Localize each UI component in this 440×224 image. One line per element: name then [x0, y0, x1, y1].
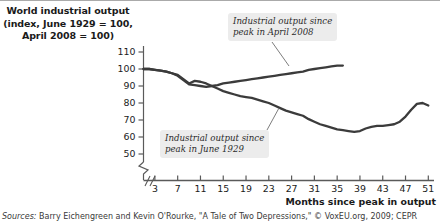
x-axis-tick-label: 19 [240, 183, 252, 194]
x-axis: 371115192327313539434751 [144, 176, 435, 194]
x-axis-tick-label: 39 [354, 183, 366, 194]
x-axis-tick-label: 43 [377, 183, 389, 194]
callout-1929-line-1: Industrial output since [165, 133, 264, 144]
y-axis-tick-labels: 1101009080706050 [118, 46, 136, 159]
x-axis-tick-label: 3 [152, 183, 158, 194]
line-series-1929 [144, 69, 429, 132]
x-axis-tick-label: 11 [194, 183, 206, 194]
plot-area: 1101009080706050 37111519232731353943475… [0, 0, 440, 224]
x-axis-tick-label: 27 [286, 183, 298, 194]
leader-line-1929 [267, 108, 279, 130]
source-label: Sources: [2, 212, 37, 221]
x-axis-tick-labels: 371115192327313539434751 [152, 183, 434, 194]
y-axis-tick-label: 90 [124, 80, 136, 91]
chart-figure: World industrial output (index, June 192… [0, 0, 440, 224]
y-axis-tick-label: 50 [124, 148, 136, 159]
callout-2008-line-1: Industrial output since [233, 16, 332, 27]
source-text: Barry Eichengreen and Kevin O'Rourke, "A… [37, 212, 418, 221]
data-series-lines [144, 66, 429, 132]
y-axis-tick-label: 80 [124, 97, 136, 108]
x-axis-tick-label: 51 [422, 183, 434, 194]
y-axis: 1101009080706050 [118, 46, 148, 180]
y-axis-ticks [139, 52, 144, 154]
x-axis-tick-label: 23 [263, 183, 275, 194]
y-axis-tick-label: 60 [124, 131, 136, 142]
x-axis-tick-label: 15 [217, 183, 229, 194]
source-note: Sources: Barry Eichengreen and Kevin O'R… [2, 212, 417, 221]
y-axis-tick-label: 70 [124, 114, 136, 125]
callout-1929: Industrial output since peak in June 192… [160, 130, 269, 158]
leader-line-2008 [272, 42, 289, 66]
y-axis-tick-label: 100 [118, 63, 136, 74]
callout-2008-line-2: peak in April 2008 [233, 27, 332, 38]
callout-leader-lines [267, 42, 289, 130]
x-axis-tick-label: 35 [331, 183, 343, 194]
x-axis-tick-label: 7 [175, 183, 181, 194]
callout-1929-line-2: peak in June 1929 [165, 144, 264, 155]
x-axis-tick-label: 47 [400, 183, 412, 194]
y-axis-tick-label: 110 [118, 46, 136, 57]
x-axis-ticks [155, 176, 428, 181]
callout-2008: Industrial output since peak in April 20… [228, 13, 337, 41]
y-axis-break-icon [139, 162, 148, 180]
x-axis-tick-label: 31 [308, 183, 320, 194]
x-axis-title: Months since peak in output [285, 196, 436, 207]
line-series-2008 [144, 66, 343, 87]
